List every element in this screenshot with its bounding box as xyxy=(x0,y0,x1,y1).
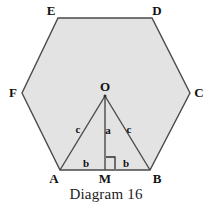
segment-label-oa: c xyxy=(73,124,83,135)
vertex-label-a: A xyxy=(47,172,61,185)
point-label-m: M xyxy=(98,172,112,185)
segment-label-mb: b xyxy=(121,158,131,169)
geometry-figure: E D C B A F O M c a c b b Diagram 16 xyxy=(0,0,212,211)
hexagon-shape xyxy=(22,18,190,170)
vertex-label-f: F xyxy=(6,86,20,99)
point-label-o: O xyxy=(98,80,112,93)
segment-label-ob: c xyxy=(124,124,134,135)
segment-label-am: b xyxy=(81,158,91,169)
point-o-marker xyxy=(104,95,107,98)
vertex-label-d: D xyxy=(150,4,164,17)
segment-label-om: a xyxy=(103,125,113,136)
vertex-label-e: E xyxy=(44,4,58,17)
vertex-label-b: B xyxy=(150,172,164,185)
vertex-label-c: C xyxy=(192,86,206,99)
figure-caption: Diagram 16 xyxy=(0,186,212,203)
